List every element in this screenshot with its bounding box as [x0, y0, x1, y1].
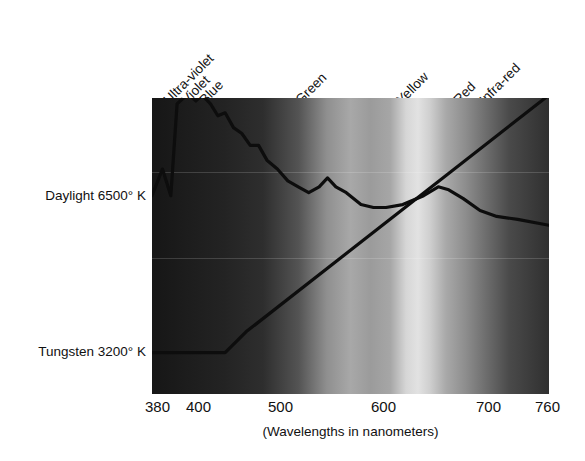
x-axis-caption: (Wavelengths in nanometers): [152, 424, 549, 440]
curve-tungsten-3200k: [152, 98, 549, 353]
y-axis-label-tungsten: Tungsten 3200° K: [38, 344, 146, 360]
x-tick-600: 600: [371, 398, 396, 416]
y-axis-label-daylight: Daylight 6500° K: [45, 188, 146, 204]
curve-layer: [152, 98, 549, 394]
spectrum-chart-figure: Ultra-violet Violet Blue Green Yellow Re…: [0, 0, 585, 461]
x-tick-500: 500: [268, 398, 293, 416]
x-tick-400: 400: [186, 398, 211, 416]
plot-area: [152, 98, 549, 394]
x-tick-700: 700: [476, 398, 501, 416]
x-tick-380: 380: [145, 398, 170, 416]
x-tick-760: 760: [535, 398, 560, 416]
curve-daylight-6500k: [152, 98, 549, 225]
